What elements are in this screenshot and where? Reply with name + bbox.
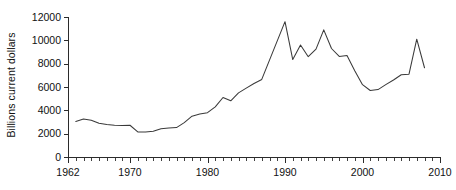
y-tick-label: 10000: [32, 34, 61, 46]
x-tick-label: 1990: [273, 166, 297, 178]
y-tick-label: 12000: [32, 11, 61, 23]
y-tick-label: 6000: [38, 81, 62, 93]
x-tick-label: 1970: [118, 166, 142, 178]
y-tick-label: 0: [55, 151, 61, 163]
data-series-line: [76, 22, 425, 132]
x-tick-label: 2010: [428, 166, 452, 178]
x-tick-label: 1962: [56, 166, 80, 178]
line-chart: Billions current dollars 020004000600080…: [0, 0, 456, 190]
y-tick-label: 4000: [38, 104, 62, 116]
y-tick-label: 2000: [38, 127, 62, 139]
x-tick-label: 1980: [196, 166, 220, 178]
chart-plot-area: 0200040006000800010000120001962197019801…: [0, 0, 456, 190]
x-tick-label: 2000: [351, 166, 375, 178]
y-tick-label: 8000: [38, 57, 62, 69]
